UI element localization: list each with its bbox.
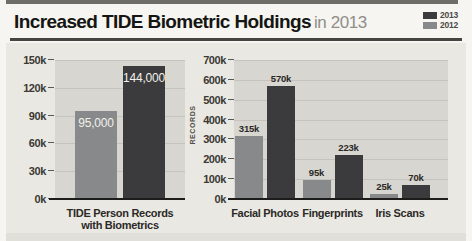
y-tick-mark [228, 79, 234, 80]
y-tick-mark [48, 87, 54, 88]
bar-group-1: 315k570k [235, 74, 295, 199]
bar-value-label: 95,000 [75, 111, 117, 130]
chart-biometric-modalities: 315k570k95k223k25k70k0k100k200k300k400k5… [188, 54, 466, 238]
y-tick-label: 100k [188, 172, 226, 186]
y-tick-label: 60k [8, 136, 46, 150]
chart-tide-person-records: 95,000144,0000k30k60k90k120k150kTIDE Per… [8, 54, 188, 238]
bar-wrap-2012: 315k [235, 124, 263, 199]
bar-group-2: 95k223k [303, 143, 363, 199]
bar-value-label: 25k [376, 182, 391, 192]
plot-area: 95,000144,000 [55, 60, 185, 199]
y-tick-label: 0k [188, 192, 226, 206]
bar-value-label: 315k [239, 124, 259, 134]
bar-wrap-2012: 25k [370, 182, 398, 199]
bar-2012-1: 95,000 [75, 111, 117, 199]
y-axis-title: RECORDS [188, 95, 198, 155]
bar-value-label: 95k [309, 168, 324, 178]
legend-item-2012: 2012 [423, 21, 458, 30]
y-tick-label: 700k [188, 53, 226, 67]
y-tick-mark [228, 158, 234, 159]
x-category-label-3: Iris Scans [370, 207, 430, 219]
bar-wrap-2012: 95,000 [75, 111, 117, 199]
bar-2012-2 [303, 180, 331, 199]
legend-swatch-2013 [423, 12, 437, 19]
bar-wrap-2013: 70k [402, 173, 430, 199]
legend-label-2013: 2013 [440, 11, 458, 20]
x-category-label: TIDE Person Records with Biometrics [55, 207, 185, 231]
bars-row: 315k570k95k223k25k70k [234, 74, 448, 199]
bar-group-1: 95,000144,000 [75, 66, 165, 199]
top-edge-strip [6, 0, 458, 4]
bar-value-label: 70k [408, 173, 423, 183]
bar-wrap-2012: 95k [303, 168, 331, 199]
x-category-labels: Facial PhotosFingerprintsIris Scans [234, 207, 448, 219]
y-tick-mark [48, 142, 54, 143]
bar-group-3: 25k70k [370, 173, 430, 199]
bar-2013-1: 144,000 [123, 66, 165, 199]
y-tick-mark [228, 99, 234, 100]
bars-row: 95,000144,000 [55, 66, 185, 199]
x-axis-line [228, 198, 448, 200]
bar-value-label: 144,000 [123, 66, 165, 85]
title-suffix: in 2013 [314, 13, 367, 32]
y-tick-label: 600k [188, 73, 226, 87]
title-main: Increased TIDE Biometric Holdings [14, 11, 311, 32]
plot-area: 315k570k95k223k25k70k [234, 60, 448, 199]
bar-2013-2 [335, 155, 363, 199]
page-title: Increased TIDE Biometric Holdingsin 2013 [14, 9, 460, 36]
gridline [234, 60, 448, 61]
x-category-label-1: Facial Photos [235, 207, 295, 219]
bar-wrap-2013: 144,000 [123, 66, 165, 199]
y-tick-label: 150k [8, 53, 46, 67]
y-tick-mark [228, 119, 234, 120]
y-tick-mark [228, 59, 234, 60]
bar-value-label: 570k [271, 74, 291, 84]
legend-item-2013: 2013 [423, 11, 458, 20]
chart-legend: 20132012 [423, 11, 458, 30]
y-tick-mark [48, 115, 54, 116]
bar-2013-3 [402, 185, 430, 199]
gridline [55, 60, 185, 61]
x-axis-line [49, 198, 185, 200]
bar-2013-1 [267, 86, 295, 199]
infographic-page: Increased TIDE Biometric Holdingsin 2013… [0, 0, 472, 241]
y-tick-label: 30k [8, 164, 46, 178]
y-tick-label: 90k [8, 109, 46, 123]
legend-swatch-2012 [423, 22, 437, 29]
y-tick-label: 120k [8, 81, 46, 95]
title-underline [10, 38, 462, 41]
x-category-label-2: Fingerprints [303, 207, 363, 219]
bar-wrap-2013: 570k [267, 74, 295, 199]
bar-2012-1 [235, 136, 263, 199]
bar-value-label: 223k [338, 143, 358, 153]
y-tick-mark [48, 59, 54, 60]
legend-label-2012: 2012 [440, 21, 458, 30]
y-tick-mark [228, 138, 234, 139]
header: Increased TIDE Biometric Holdingsin 2013… [14, 9, 460, 39]
y-tick-mark [228, 178, 234, 179]
bar-wrap-2013: 223k [335, 143, 363, 199]
y-tick-mark [48, 170, 54, 171]
y-tick-label: 0k [8, 192, 46, 206]
